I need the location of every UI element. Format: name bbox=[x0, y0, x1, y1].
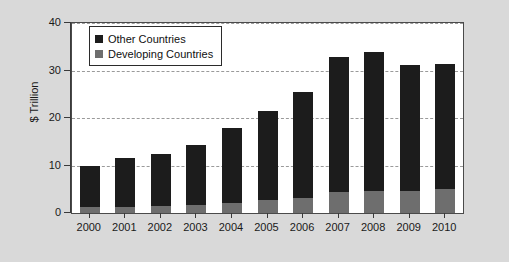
y-axis-tick bbox=[64, 22, 71, 23]
y-axis-tick-label: 10 bbox=[33, 160, 61, 171]
x-axis-tick bbox=[302, 213, 303, 218]
bar-segment-developing-countries bbox=[151, 206, 171, 213]
bar-segment-other-countries bbox=[364, 52, 384, 192]
x-axis-tick bbox=[338, 213, 339, 218]
x-axis-tick-label: 2004 bbox=[211, 221, 251, 233]
bar-segment-other-countries bbox=[115, 158, 135, 206]
legend-item-label: Other Countries bbox=[108, 33, 186, 45]
bar-2006 bbox=[293, 92, 313, 213]
y-axis-tick bbox=[64, 70, 71, 71]
bar-2008 bbox=[364, 52, 384, 214]
bar-segment-other-countries bbox=[186, 145, 206, 205]
legend-item-label: Developing Countries bbox=[108, 48, 213, 60]
gridline bbox=[72, 23, 463, 24]
legend-swatch-icon bbox=[95, 35, 103, 43]
bar-segment-other-countries bbox=[329, 57, 349, 192]
x-axis-tick bbox=[195, 213, 196, 218]
bar-segment-other-countries bbox=[151, 154, 171, 206]
y-axis-tick bbox=[64, 165, 71, 166]
bar-segment-other-countries bbox=[222, 128, 242, 203]
bar-segment-developing-countries bbox=[186, 205, 206, 213]
y-axis-tick bbox=[64, 117, 71, 118]
x-axis-tick-label: 2003 bbox=[175, 221, 215, 233]
bar-2009 bbox=[400, 65, 420, 213]
bar-segment-other-countries bbox=[80, 166, 100, 208]
x-axis-tick-label: 2010 bbox=[424, 221, 464, 233]
y-axis-tick bbox=[64, 212, 71, 213]
bar-segment-developing-countries bbox=[329, 192, 349, 213]
bar-segment-developing-countries bbox=[80, 207, 100, 213]
bar-2001 bbox=[115, 158, 135, 213]
bar-segment-developing-countries bbox=[400, 191, 420, 213]
x-axis-tick-label: 2000 bbox=[69, 221, 109, 233]
bar-segment-developing-countries bbox=[435, 189, 455, 213]
x-axis-tick-label: 2005 bbox=[247, 221, 287, 233]
x-axis-tick-label: 2008 bbox=[353, 221, 393, 233]
bar-segment-developing-countries bbox=[222, 203, 242, 213]
x-axis-tick-label: 2006 bbox=[282, 221, 322, 233]
y-axis-tick-label: 40 bbox=[33, 17, 61, 28]
x-axis-tick bbox=[444, 213, 445, 218]
bar-2003 bbox=[186, 145, 206, 213]
x-axis-tick-label: 2007 bbox=[318, 221, 358, 233]
bar-segment-developing-countries bbox=[115, 207, 135, 213]
x-axis-tick bbox=[373, 213, 374, 218]
bar-2010 bbox=[435, 64, 455, 213]
bar-2007 bbox=[329, 57, 349, 213]
bar-segment-other-countries bbox=[258, 111, 278, 200]
x-axis-tick bbox=[231, 213, 232, 218]
legend-item: Other Countries bbox=[95, 31, 213, 46]
bar-segment-developing-countries bbox=[293, 198, 313, 213]
y-axis-tick-label: 30 bbox=[33, 65, 61, 76]
x-axis-tick-label: 2002 bbox=[140, 221, 180, 233]
x-axis-tick bbox=[89, 213, 90, 218]
bar-2004 bbox=[222, 128, 242, 213]
x-axis-tick bbox=[160, 213, 161, 218]
y-axis-tick-label: 20 bbox=[33, 112, 61, 123]
bar-segment-other-countries bbox=[435, 64, 455, 189]
x-axis-tick-label: 2009 bbox=[389, 221, 429, 233]
y-axis-tick-label: 0 bbox=[33, 207, 61, 218]
legend-item: Developing Countries bbox=[95, 46, 213, 61]
x-axis-tick bbox=[124, 213, 125, 218]
bar-2000 bbox=[80, 166, 100, 214]
bar-segment-other-countries bbox=[293, 92, 313, 198]
bar-segment-other-countries bbox=[400, 65, 420, 191]
bar-2005 bbox=[258, 111, 278, 213]
x-axis-tick-label: 2001 bbox=[104, 221, 144, 233]
chart-figure: $ Trillion 01020304020002001200220032004… bbox=[0, 0, 509, 262]
x-axis-tick bbox=[267, 213, 268, 218]
x-axis-tick bbox=[409, 213, 410, 218]
bar-segment-developing-countries bbox=[258, 200, 278, 213]
bar-segment-developing-countries bbox=[364, 191, 384, 213]
bar-2002 bbox=[151, 154, 171, 213]
chart-legend: Other CountriesDeveloping Countries bbox=[89, 26, 222, 66]
legend-swatch-icon bbox=[95, 50, 103, 58]
